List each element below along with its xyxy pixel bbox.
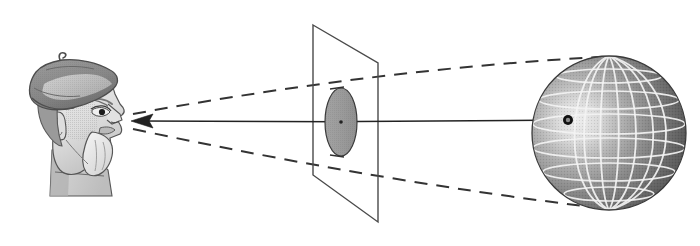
sight-ray-near-segment <box>140 121 341 122</box>
projected-ellipse <box>325 87 357 157</box>
observer-head <box>29 53 124 196</box>
diagram-canvas: Perspective projection of a sphere onto … <box>0 0 700 246</box>
target-sphere <box>532 56 686 210</box>
beard-shape <box>83 132 113 176</box>
perspective-projection-diagram <box>0 0 700 246</box>
ellipse-center-dot <box>339 120 343 124</box>
eye-pupil-icon <box>99 109 105 115</box>
surface-point-center <box>566 118 570 122</box>
surface-point-marker <box>563 115 573 125</box>
beret-stalk-icon <box>59 53 66 60</box>
